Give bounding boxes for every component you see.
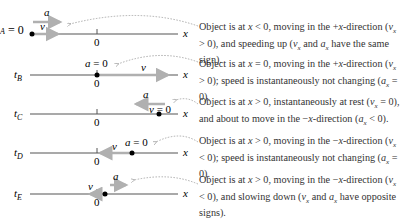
- leader-line: [70, 15, 198, 26]
- origin-label: 0: [94, 155, 100, 167]
- description-e: Object is at x > 0, moving in the −x-dir…: [199, 174, 401, 219]
- time-label: tB: [14, 68, 22, 83]
- object-dot: [157, 112, 162, 117]
- accel-note: a = 0: [125, 136, 148, 148]
- object-dot: [103, 192, 108, 197]
- axis-label: x: [182, 27, 188, 39]
- time-label: tC: [14, 107, 23, 122]
- velocity-label: v: [112, 140, 117, 152]
- row-a: A = 0 0 x v a: [0, 6, 198, 48]
- origin-label: 0: [94, 36, 100, 48]
- acceleration-label: a: [143, 88, 149, 100]
- axis-label: x: [182, 68, 188, 80]
- leader-line: [156, 136, 198, 142]
- leader-line: [134, 177, 198, 184]
- time-label: tD: [14, 146, 23, 161]
- description-c: Object is at x > 0, instantaneously at r…: [199, 96, 401, 129]
- object-dot: [30, 32, 35, 37]
- row-a-left-label: A = 0: [0, 23, 24, 37]
- row-d: tD 0 x v a = 0: [14, 136, 198, 167]
- axis-label: x: [182, 146, 188, 158]
- row-b: tB 0 x v a = 0: [14, 55, 198, 89]
- leader-line: [118, 55, 198, 64]
- axis-label: x: [182, 107, 188, 119]
- time-label: tE: [14, 187, 22, 202]
- origin-label: 0: [94, 116, 100, 128]
- row-c: tC 0 x a v = 0: [14, 88, 198, 128]
- object-dot: [95, 73, 100, 78]
- acceleration-label: a: [44, 6, 50, 18]
- origin-label: 0: [94, 77, 100, 89]
- leader-line: [176, 99, 198, 104]
- velocity-label: v: [88, 180, 93, 192]
- object-dot: [130, 151, 135, 156]
- velocity-label: v: [141, 61, 146, 73]
- acceleration-label: a: [113, 170, 119, 182]
- accel-note: a = 0: [85, 57, 108, 69]
- row-e: tE 0 x v a: [14, 170, 198, 208]
- origin-label: 0: [94, 196, 100, 208]
- axis-label: x: [182, 187, 188, 199]
